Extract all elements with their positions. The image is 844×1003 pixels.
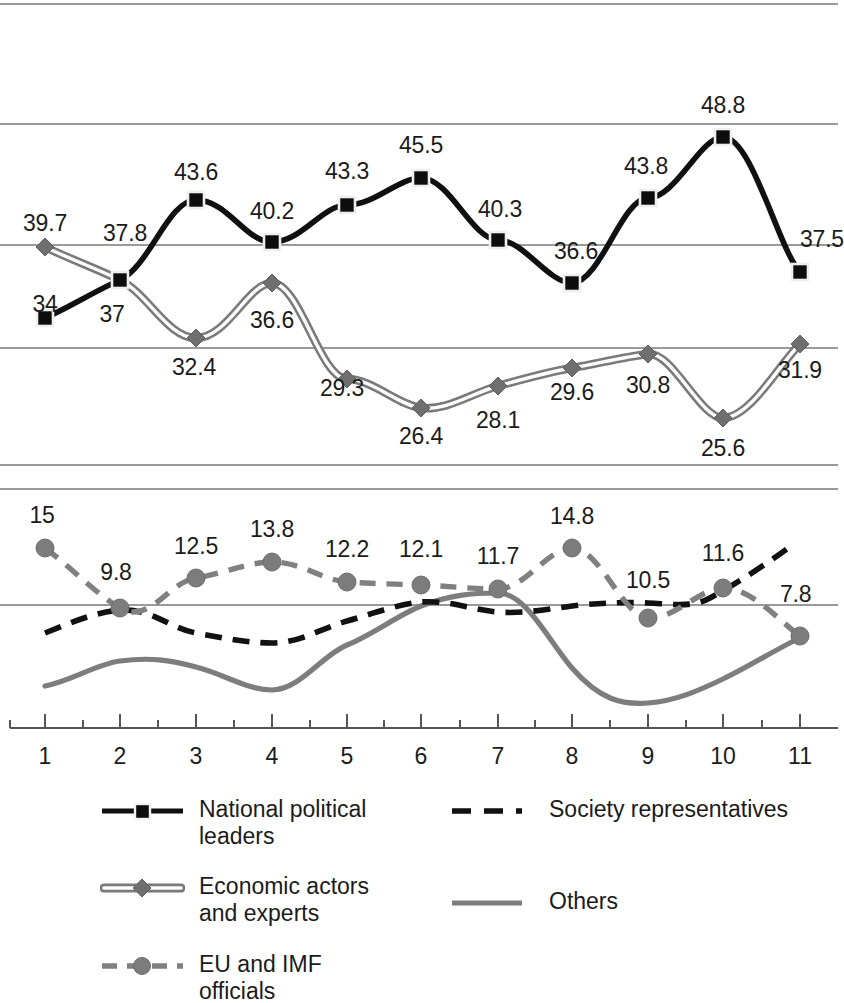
data-label: 29.6 bbox=[550, 381, 594, 404]
data-label: 48.8 bbox=[701, 94, 745, 117]
data-label: 36.6 bbox=[554, 240, 598, 263]
x-tick-label: 10 bbox=[710, 745, 736, 768]
x-axis-tick-labels: 1 2 3 4 5 6 7 8 9 10 11 bbox=[0, 745, 838, 779]
dashed-circle-grey-key-icon bbox=[100, 952, 185, 980]
data-label: 10.5 bbox=[626, 569, 670, 592]
data-label: 9.8 bbox=[100, 561, 131, 584]
outlined-diamond-grey-key-icon bbox=[100, 874, 185, 902]
x-tick-label: 8 bbox=[566, 745, 579, 768]
legend-label: National political leaders bbox=[199, 795, 366, 850]
legend-label: EU and IMF officials bbox=[199, 950, 322, 1003]
legend-item-national-political-leaders[interactable]: National political leaders bbox=[100, 795, 430, 850]
x-tick-label: 9 bbox=[642, 745, 655, 768]
legend-column-left: National political leaders Economic acto… bbox=[100, 795, 430, 1003]
data-label: 7.8 bbox=[780, 583, 811, 606]
dashed-black-key-icon bbox=[450, 797, 535, 825]
data-label: 32.4 bbox=[172, 356, 216, 379]
x-tick-label: 4 bbox=[266, 745, 279, 768]
legend-label: Economic actors and experts bbox=[199, 872, 369, 927]
data-label: 40.2 bbox=[250, 200, 294, 223]
data-label: 11.7 bbox=[477, 545, 519, 568]
data-label: 14.8 bbox=[550, 505, 594, 528]
data-label: 26.4 bbox=[399, 425, 443, 448]
data-label: 37.5 bbox=[800, 228, 844, 251]
chart-legend: National political leaders Economic acto… bbox=[0, 795, 838, 981]
data-label: 36.6 bbox=[250, 309, 294, 332]
x-tick-label: 6 bbox=[415, 745, 428, 768]
data-label: 25.6 bbox=[701, 437, 745, 460]
data-label: 13.8 bbox=[250, 518, 294, 541]
x-tick-label: 5 bbox=[341, 745, 354, 768]
legend-label: Society representatives bbox=[549, 795, 788, 823]
legend-item-others[interactable]: Others bbox=[450, 887, 838, 917]
legend-item-eu-imf-officials[interactable]: EU and IMF officials bbox=[100, 950, 430, 1003]
x-tick-label: 11 bbox=[788, 745, 812, 768]
data-label: 30.8 bbox=[626, 374, 670, 397]
legend-item-society-representatives[interactable]: Society representatives bbox=[450, 795, 838, 825]
data-label: 37 bbox=[99, 303, 124, 326]
data-label: 29.3 bbox=[320, 377, 364, 400]
legend-item-economic-actors[interactable]: Economic actors and experts bbox=[100, 872, 430, 927]
data-label: 34 bbox=[32, 293, 57, 316]
data-label: 12.5 bbox=[174, 535, 218, 558]
data-label: 43.6 bbox=[174, 161, 218, 184]
data-label: 31.9 bbox=[778, 359, 822, 382]
data-label: 45.5 bbox=[399, 134, 443, 157]
series-line-economic-actors bbox=[45, 247, 800, 418]
x-tick-label: 1 bbox=[39, 745, 52, 768]
data-label: 11.6 bbox=[702, 542, 744, 565]
legend-column-right: Society representatives Others bbox=[450, 795, 838, 939]
data-label: 28.1 bbox=[476, 409, 520, 432]
data-label: 15 bbox=[29, 504, 54, 527]
data-label: 39.7 bbox=[23, 212, 67, 235]
series-line-others bbox=[45, 593, 800, 703]
data-label: 43.8 bbox=[624, 155, 668, 178]
x-tick-label: 2 bbox=[114, 745, 127, 768]
series-line-national-political-leaders bbox=[45, 137, 800, 318]
legend-label: Others bbox=[549, 887, 618, 915]
solid-square-black-key-icon bbox=[100, 797, 185, 825]
data-label: 40.3 bbox=[478, 198, 522, 221]
x-tick-label: 3 bbox=[190, 745, 203, 768]
solid-grey-key-icon bbox=[450, 889, 535, 917]
data-label: 37.8 bbox=[103, 222, 147, 245]
data-label: 43.3 bbox=[325, 160, 369, 183]
data-label: 12.1 bbox=[399, 538, 443, 561]
data-label: 12.2 bbox=[325, 538, 369, 561]
x-axis bbox=[10, 714, 838, 728]
x-tick-label: 7 bbox=[492, 745, 505, 768]
